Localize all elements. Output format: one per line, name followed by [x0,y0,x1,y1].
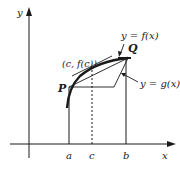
mean-value-theorem-diagram: y x P Q (c, f(c)) y = f(x) y = g(x) a c … [0,0,180,170]
f-curve-label: y = f(x) [120,30,159,41]
tick-label-a: a [66,150,72,161]
x-axis-arrow-icon [167,141,176,147]
tick-label-b: b [123,150,129,161]
point-label-q: Q [128,42,138,55]
point-label-p: P [57,82,67,95]
tick-label-c: c [89,150,95,161]
x-axis-label: x [162,150,168,161]
y-axis-arrow-icon [26,7,32,16]
tangent-point-label: (c, f(c)) [62,58,97,69]
g-curve-label: y = g(x) [139,78,180,89]
y-axis-label: y [16,7,23,18]
g-label-pointer [123,74,138,82]
f-pointer-arrow-icon [118,51,122,57]
